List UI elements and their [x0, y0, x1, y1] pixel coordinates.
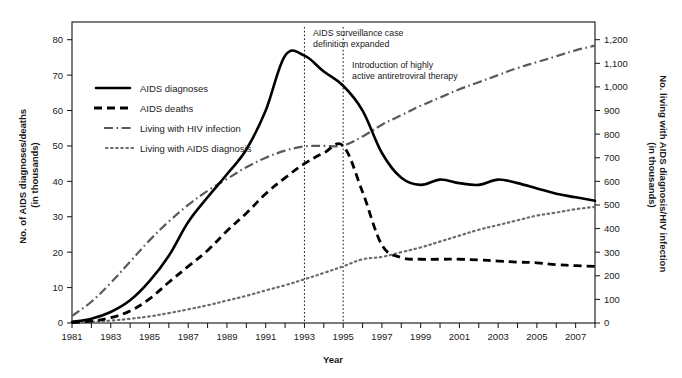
x-axis-tick-label: 1993	[294, 331, 315, 342]
x-axis-tick-label: 1995	[333, 331, 354, 342]
x-axis-title: Year	[323, 354, 343, 365]
x-axis-tick-label: 2005	[526, 331, 547, 342]
y-axis-right-tick-label: 0	[604, 317, 609, 328]
line-chart: 01020304050607080 0100200300400500600700…	[0, 0, 682, 378]
y-axis-right-tick-label: 1,100	[604, 58, 628, 69]
x-axis-tick-label: 2007	[565, 331, 586, 342]
x-axis-tick-label: 1985	[139, 331, 160, 342]
y-axis-right-title: No. living with AIDS diagnosis/HIV infec…	[647, 75, 670, 275]
y-axis-left-tick-label: 10	[52, 282, 63, 293]
legend-label-aids-diagnoses: AIDS diagnoses	[140, 83, 208, 94]
x-axis-tick-label: 1981	[61, 331, 82, 342]
y-axis-left-tick-label: 40	[52, 176, 63, 187]
y-axis-left-tick-label: 0	[58, 317, 63, 328]
legend-label-aids-deaths: AIDS deaths	[140, 103, 194, 114]
y-axis-left-tick-label: 80	[52, 34, 63, 45]
y-axis-left-tick-label: 70	[52, 70, 63, 81]
x-axis-tick-label: 1997	[371, 331, 392, 342]
legend-label-living-with-aids-diagnosis: Living with AIDS diagnosis	[140, 143, 252, 154]
left-axis-ticks: 01020304050607080	[52, 34, 72, 328]
y-axis-right-tick-label: 100	[604, 294, 620, 305]
y-axis-right-tick-label: 500	[604, 199, 620, 210]
y-axis-left-tick-label: 30	[52, 211, 63, 222]
y-axis-right-tick-label: 1,200	[604, 34, 628, 45]
y-axis-right-tick-label: 600	[604, 176, 620, 187]
y-axis-right-tick-label: 900	[604, 105, 620, 116]
chart-container: 01020304050607080 0100200300400500600700…	[0, 0, 682, 378]
y-axis-right-tick-label: 800	[604, 129, 620, 140]
y-axis-left-tick-label: 20	[52, 247, 63, 258]
x-axis-tick-label: 2003	[488, 331, 509, 342]
y-axis-left-tick-label: 60	[52, 105, 63, 116]
x-axis-tick-label: 1999	[410, 331, 431, 342]
y-axis-right-tick-label: 400	[604, 223, 620, 234]
legend-label-living-with-hiv-infection: Living with HIV infection	[140, 123, 241, 134]
x-axis-tick-label: 1989	[216, 331, 237, 342]
y-axis-right-tick-label: 700	[604, 152, 620, 163]
plot-frame	[72, 22, 595, 323]
right-axis-ticks: 01002003004005006007008009001,0001,1001,…	[595, 34, 628, 328]
x-axis-ticks: 1981198319851987198919911993199519971999…	[61, 323, 595, 342]
x-axis-tick-label: 1983	[100, 331, 121, 342]
annotation-aids-surveillance-case-definition: AIDS surveillance case definition expand…	[313, 28, 406, 49]
x-axis-tick-label: 2001	[449, 331, 470, 342]
y-axis-right-tick-label: 300	[604, 247, 620, 258]
y-axis-right-tick-label: 1,000	[604, 81, 628, 92]
annotation-haart-introduction: Introduction of highly active antiretrov…	[352, 60, 458, 81]
x-axis-tick-label: 1987	[178, 331, 199, 342]
x-axis-tick-label: 1991	[255, 331, 276, 342]
y-axis-left-title: No. of AIDS diagnoses/deaths (in thousan…	[17, 106, 40, 243]
y-axis-left-tick-label: 50	[52, 140, 63, 151]
chart-legend: AIDS diagnoses AIDS deaths Living with H…	[94, 83, 252, 154]
series-living-with-aids-diagnosis	[72, 207, 595, 323]
y-axis-right-tick-label: 200	[604, 270, 620, 281]
series-aids-deaths	[72, 144, 595, 323]
